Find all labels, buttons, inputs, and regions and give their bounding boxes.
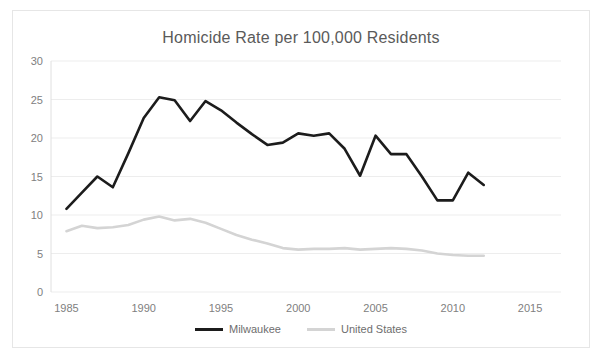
legend-swatch-icon [307, 328, 335, 331]
legend-swatch-icon [195, 328, 223, 331]
legend-label: United States [341, 323, 407, 335]
chart-card: Homicide Rate per 100,000 Residents 0510… [12, 10, 590, 348]
legend-item-milwaukee[interactable]: Milwaukee [195, 323, 281, 335]
y-tick-label: 0 [17, 286, 43, 298]
x-tick-label: 1995 [199, 302, 243, 314]
x-tick-label: 2005 [354, 302, 398, 314]
y-tick-label: 5 [17, 248, 43, 260]
gridlines [51, 61, 561, 292]
x-tick-label: 1985 [44, 302, 88, 314]
y-tick-label: 15 [17, 171, 43, 183]
legend-item-united-states[interactable]: United States [307, 323, 407, 335]
x-tick-label: 2000 [276, 302, 320, 314]
series-line-milwaukee [66, 97, 483, 209]
x-tick-label: 1990 [122, 302, 166, 314]
legend-label: Milwaukee [229, 323, 281, 335]
plot-area: 051015202530 198519901995200020052010201… [13, 11, 591, 349]
y-tick-label: 10 [17, 209, 43, 221]
y-tick-label: 20 [17, 132, 43, 144]
x-tick-label: 2010 [431, 302, 475, 314]
chart-canvas [13, 11, 591, 349]
y-tick-label: 25 [17, 94, 43, 106]
series-line-united-states [66, 217, 483, 256]
y-tick-label: 30 [17, 55, 43, 67]
chart-legend: MilwaukeeUnited States [13, 323, 589, 335]
x-tick-label: 2015 [508, 302, 552, 314]
